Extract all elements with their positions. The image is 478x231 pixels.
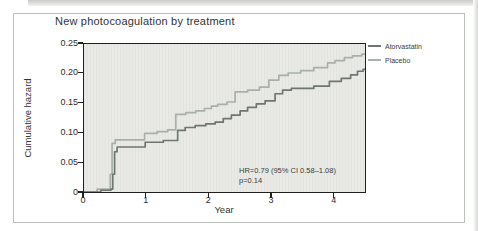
y-tick-label: 0.20 [52,67,78,77]
legend-item-placebo: Placebo [368,53,422,67]
x-tick-mark [145,193,146,198]
y-tick-mark [78,42,83,43]
legend-line-swatch [368,59,381,61]
y-tick-mark [78,132,83,133]
y-tick-mark [78,72,83,73]
y-tick-mark [78,102,83,103]
y-tick-label: 0.25 [52,38,78,48]
plot-area: HR=0.79 (95% CI 0.58–1.08) p=0.14 [83,43,366,193]
legend: AtorvastatinPlacebo [368,39,422,67]
x-axis-title: Year [214,204,233,215]
scan-shadow-right [473,0,478,231]
x-tick-mark [208,193,209,198]
p-value-annotation: p=0.14 [239,176,336,186]
legend-item-atorvastatin: Atorvastatin [368,39,422,53]
y-tick-mark [78,162,83,163]
legend-line-swatch [368,45,381,47]
x-tick-mark [270,193,271,198]
legend-label: Atorvastatin [385,43,422,50]
x-tick-mark [333,193,334,198]
y-tick-label: 0.15 [52,97,78,107]
legend-label: Placebo [385,57,410,64]
y-tick-label: 0.05 [52,157,78,167]
y-tick-label: 0.10 [52,127,78,137]
scan-shadow-top [28,0,478,6]
annotation-block: HR=0.79 (95% CI 0.58–1.08) p=0.14 [239,166,336,186]
y-axis-title: Cumulative hazard [22,78,33,157]
hr-annotation: HR=0.79 (95% CI 0.58–1.08) [239,166,336,176]
chart-title: New photocoagulation by treatment [55,15,235,27]
figure-page: New photocoagulation by treatment Cumula… [0,0,478,231]
x-tick-mark [82,193,83,198]
